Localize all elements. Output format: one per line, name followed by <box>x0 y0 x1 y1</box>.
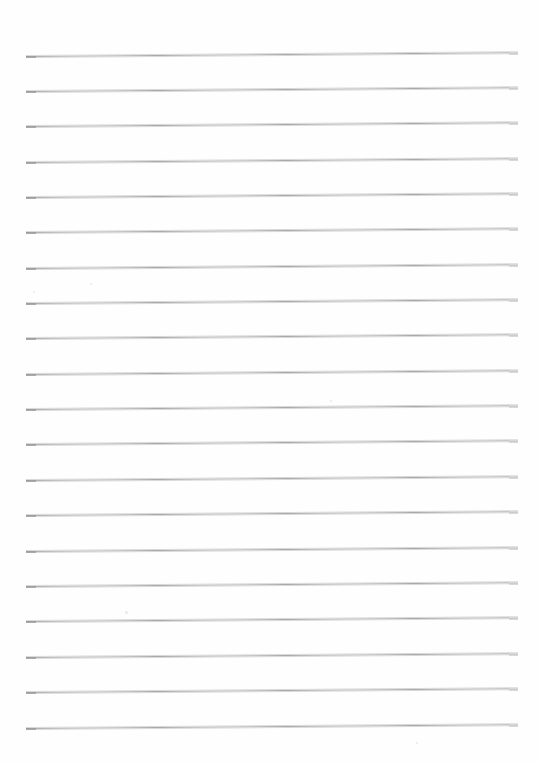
scan-speck <box>90 283 92 285</box>
ruled-line-left-cap <box>26 91 36 93</box>
ruled-line-left-cap <box>26 232 36 234</box>
ruled-line-left-cap <box>26 692 36 694</box>
ruled-line-left-cap <box>26 409 36 411</box>
paper-surface <box>0 0 538 764</box>
ruled-line-left-cap <box>26 126 36 128</box>
lined-paper-page <box>0 0 538 764</box>
ruled-line-left-cap <box>26 338 36 340</box>
ruled-line-left-cap <box>26 197 36 199</box>
ruled-line-left-cap <box>26 162 36 164</box>
ruled-line-left-cap <box>26 374 36 376</box>
ruled-line-left-cap <box>26 551 36 553</box>
ruled-line-left-cap <box>26 480 36 482</box>
ruled-line-left-cap <box>26 657 36 659</box>
ruled-line-left-cap <box>26 586 36 588</box>
ruled-line-left-cap <box>26 728 36 730</box>
ruled-line-left-cap <box>26 56 36 58</box>
ruled-line-left-cap <box>26 515 36 517</box>
scan-speck <box>33 291 35 293</box>
scan-speck <box>125 611 128 614</box>
ruled-line-left-cap <box>26 303 36 305</box>
scan-speck <box>416 742 418 744</box>
ruled-line-left-cap <box>26 444 36 446</box>
scan-speck <box>330 400 332 402</box>
ruled-line-left-cap <box>26 268 36 270</box>
ruled-line-left-cap <box>26 621 36 623</box>
